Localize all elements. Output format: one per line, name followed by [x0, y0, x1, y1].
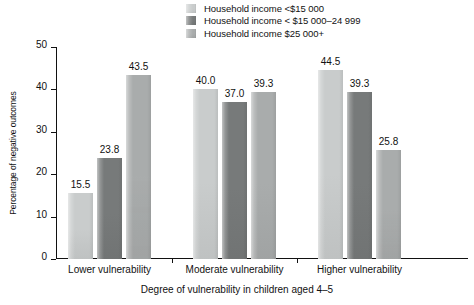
y-axis-tick: 0: [51, 259, 56, 260]
bar-fill: [68, 193, 93, 259]
bar-value-label: 25.8: [379, 137, 398, 147]
bar-fill: [193, 89, 218, 259]
bar-fill: [347, 92, 372, 259]
y-axis-tick-label: 40: [36, 82, 47, 92]
bar: 39.3: [347, 92, 372, 259]
bar-value-label: 23.8: [100, 145, 119, 155]
legend-swatch-icon: [186, 29, 196, 38]
y-axis-tick-label: 30: [36, 125, 47, 135]
bar: 44.5: [318, 70, 343, 259]
y-axis-tick: 30: [51, 132, 56, 133]
x-axis-group-label: Higher vulnerability: [317, 265, 402, 275]
bar: 15.5: [68, 193, 93, 259]
bar-value-label: 39.3: [254, 79, 273, 89]
y-axis-line: [56, 47, 57, 259]
bar: 37.0: [222, 102, 247, 259]
chart-legend: Household income <$15 000 Household inco…: [186, 2, 466, 40]
bar-fill: [222, 102, 247, 259]
bar-value-label: 37.0: [225, 89, 244, 99]
y-axis-tick: 10: [51, 217, 56, 218]
bar-fill: [376, 150, 401, 259]
x-axis-title: Degree of vulnerability in children aged…: [0, 285, 474, 295]
x-axis-tick: [172, 259, 173, 263]
y-axis-tick-label: 20: [36, 167, 47, 177]
legend-item-label: Household income $25 000+: [204, 29, 324, 39]
y-axis-tick-label: 10: [36, 210, 47, 220]
bar-fill: [126, 75, 151, 259]
x-axis-group-label: Lower vulnerability: [68, 265, 151, 275]
bar: 43.5: [126, 75, 151, 259]
bar: 25.8: [376, 150, 401, 259]
legend-swatch-icon: [186, 4, 196, 13]
y-axis-tick: 50: [51, 47, 56, 48]
bar-fill: [318, 70, 343, 259]
y-axis-title: Percentage of negative outcomes: [6, 47, 20, 259]
legend-item: Household income $25 000+: [186, 27, 466, 40]
legend-item: Household income < $15 000–24 999: [186, 15, 466, 28]
legend-swatch-icon: [186, 16, 196, 25]
bar-value-label: 43.5: [129, 62, 148, 72]
plot-area: 01020304050 15.523.843.540.037.039.344.5…: [56, 47, 468, 259]
legend-item-label: Household income < $15 000–24 999: [204, 16, 361, 26]
bar-value-label: 44.5: [321, 57, 340, 67]
y-axis-tick: 20: [51, 174, 56, 175]
x-axis-group-label: Moderate vulnerability: [186, 265, 284, 275]
bar-value-label: 15.5: [71, 180, 90, 190]
bar-fill: [97, 158, 122, 259]
bar: 40.0: [193, 89, 218, 259]
legend-item-label: Household income <$15 000: [204, 4, 324, 14]
bar-value-label: 39.3: [350, 79, 369, 89]
bar: 23.8: [97, 158, 122, 259]
bar-fill: [251, 92, 276, 259]
bar-value-label: 40.0: [196, 76, 215, 86]
y-axis-tick-label: 0: [41, 252, 47, 262]
x-axis-tick: [297, 259, 298, 263]
legend-item: Household income <$15 000: [186, 2, 466, 15]
bar: 39.3: [251, 92, 276, 259]
y-axis-tick: 40: [51, 89, 56, 90]
y-axis-tick-label: 50: [36, 40, 47, 50]
